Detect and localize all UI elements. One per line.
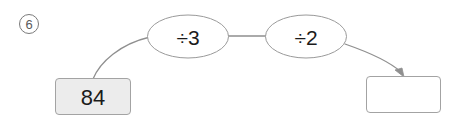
operation-1-label: ÷3 — [176, 26, 199, 49]
input-value-box: 84 — [56, 79, 131, 115]
operation-node-2: ÷2 — [266, 15, 347, 58]
worksheet-problem: 6 84 ÷3 ÷2 — [0, 0, 457, 122]
input-box-value: 84 — [81, 85, 105, 110]
operation-node-1: ÷3 — [148, 15, 229, 58]
item-number-marker: 6 — [20, 15, 39, 34]
output-answer-box[interactable] — [367, 77, 441, 113]
connector-op2-to-output — [345, 44, 401, 72]
item-number-label: 6 — [25, 17, 32, 32]
arrow-head-icon — [395, 68, 404, 77]
operation-2-label: ÷2 — [294, 26, 317, 49]
output-box-shape[interactable] — [367, 77, 441, 113]
connector-input-to-op1 — [93, 37, 150, 79]
function-machine-diagram: 6 84 ÷3 ÷2 — [0, 0, 457, 122]
